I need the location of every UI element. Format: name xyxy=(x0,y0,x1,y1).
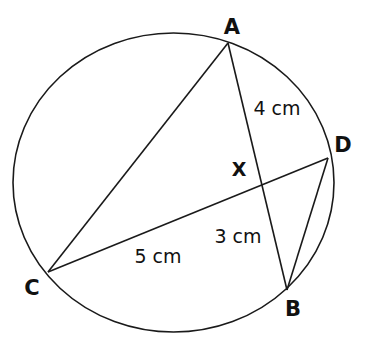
chord-cd xyxy=(48,158,328,272)
measure-label-ax: 4 cm xyxy=(253,99,300,118)
measure-label-cx: 5 cm xyxy=(134,247,181,266)
chord-ac xyxy=(48,43,228,272)
vertex-label-c: C xyxy=(24,278,39,299)
intersection-label-x: X xyxy=(232,160,247,179)
geometry-canvas xyxy=(0,0,375,358)
chord-db xyxy=(287,158,328,290)
circle-geometry-figure: A D B C X 4 cm 3 cm 5 cm xyxy=(0,0,375,358)
vertex-label-d: D xyxy=(334,135,351,156)
vertex-label-b: B xyxy=(285,299,301,320)
vertex-label-a: A xyxy=(224,17,240,38)
measure-label-xb: 3 cm xyxy=(214,227,261,246)
